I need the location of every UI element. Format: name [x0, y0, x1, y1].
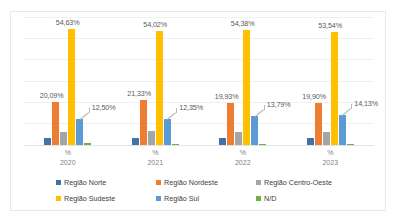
bar-group: [287, 18, 375, 145]
legend-swatch-icon: [156, 196, 161, 201]
data-label: 14,13%: [354, 99, 378, 108]
legend-item[interactable]: Região Centro-Oeste: [256, 178, 356, 187]
bar[interactable]: [339, 115, 346, 145]
legend-swatch-icon: [56, 180, 61, 185]
bar-cluster: [219, 18, 266, 145]
legend-swatch-icon: [256, 196, 261, 201]
bar[interactable]: [156, 31, 163, 145]
legend-item[interactable]: Região Norte: [56, 178, 156, 187]
bar-group: [112, 18, 200, 145]
legend-label: N/D: [264, 194, 276, 203]
bar[interactable]: [347, 144, 354, 145]
data-label: 19,93%: [215, 92, 239, 101]
x-tick-year: 2021: [112, 158, 200, 168]
legend-label: Região Nordeste: [164, 178, 218, 187]
plot-area: 20,09%54,63%12,50%21,33%54,02%12,35%19,9…: [24, 18, 374, 146]
legend-swatch-icon: [56, 196, 61, 201]
bar[interactable]: [76, 119, 83, 145]
bar[interactable]: [52, 102, 59, 145]
legend-swatch-icon: [156, 180, 161, 185]
bar[interactable]: [148, 131, 155, 145]
bar-group: [199, 18, 287, 145]
legend-label: Região Sul: [164, 194, 199, 203]
x-tick-unit: %: [199, 148, 287, 158]
bar[interactable]: [68, 29, 75, 145]
data-label: 54,38%: [231, 19, 255, 28]
bar-cluster: [44, 18, 91, 145]
data-label: 54,63%: [56, 18, 80, 27]
x-tick-2023: %2023: [287, 148, 375, 168]
legend-item[interactable]: Região Nordeste: [156, 178, 256, 187]
x-axis: %2020%2021%2022%2023: [24, 148, 374, 174]
bar[interactable]: [219, 138, 226, 145]
x-tick-2020: %2020: [24, 148, 112, 168]
bar[interactable]: [60, 132, 67, 145]
bar[interactable]: [323, 132, 330, 145]
bar[interactable]: [315, 103, 322, 145]
bar[interactable]: [331, 32, 338, 145]
bar[interactable]: [164, 119, 171, 145]
x-tick-year: 2023: [287, 158, 375, 168]
legend-row: Região SudesteRegião SulN/D: [56, 194, 356, 203]
legend-item[interactable]: Região Sul: [156, 194, 256, 203]
bar[interactable]: [251, 116, 258, 145]
bar[interactable]: [227, 103, 234, 145]
x-axis-line: [24, 145, 374, 146]
bar-cluster: [132, 18, 179, 145]
x-tick-unit: %: [112, 148, 200, 158]
data-label: 21,33%: [127, 89, 151, 98]
chart-card: 20,09%54,63%12,50%21,33%54,02%12,35%19,9…: [10, 11, 386, 211]
data-label: 19,90%: [302, 92, 326, 101]
bar[interactable]: [235, 132, 242, 145]
data-label: 53,54%: [318, 21, 342, 30]
legend-swatch-icon: [256, 180, 261, 185]
x-tick-2021: %2021: [112, 148, 200, 168]
x-tick-2022: %2022: [199, 148, 287, 168]
x-tick-unit: %: [24, 148, 112, 158]
chart-legend: Região NorteRegião NordesteRegião Centro…: [56, 178, 356, 210]
legend-label: Região Sudeste: [64, 194, 115, 203]
bar[interactable]: [172, 144, 179, 145]
bar[interactable]: [44, 138, 51, 145]
bar[interactable]: [84, 143, 91, 145]
data-label: 20,09%: [40, 91, 64, 100]
x-tick-year: 2020: [24, 158, 112, 168]
data-label: 54,02%: [143, 20, 167, 29]
legend-label: Região Norte: [64, 178, 106, 187]
bar-group: [24, 18, 112, 145]
x-tick-year: 2022: [199, 158, 287, 168]
bar[interactable]: [132, 138, 139, 145]
legend-label: Região Centro-Oeste: [264, 178, 332, 187]
bar[interactable]: [307, 138, 314, 145]
bar[interactable]: [140, 100, 147, 145]
legend-item[interactable]: N/D: [256, 194, 356, 203]
x-tick-unit: %: [287, 148, 375, 158]
bar[interactable]: [243, 30, 250, 145]
legend-item[interactable]: Região Sudeste: [56, 194, 156, 203]
legend-row: Região NorteRegião NordesteRegião Centro…: [56, 178, 356, 187]
bar[interactable]: [259, 144, 266, 145]
bar-cluster: [307, 18, 354, 145]
